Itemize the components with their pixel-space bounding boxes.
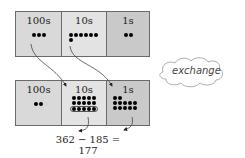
arrow-tens-to-ones <box>70 46 112 86</box>
arrow-ones-crossout <box>124 117 133 130</box>
arrow-hundreds-to-tens <box>31 44 66 86</box>
subtraction-equation: 362 − 185 = 177 <box>48 134 128 156</box>
arrow-tens-crossout <box>79 117 89 131</box>
exchange-callout: exchange <box>172 65 220 76</box>
